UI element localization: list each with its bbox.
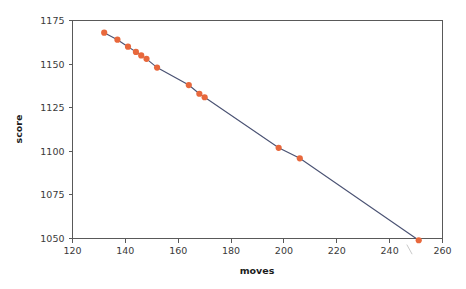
series-line-score [104,33,419,241]
x-axis-ticks: 120140160180200220240260 [63,239,451,256]
data-point-0 [101,30,107,36]
x-axis-title: moves [240,265,275,276]
y-tick-label-1150: 1150 [40,59,64,70]
x-tick-label-140: 140 [116,245,134,256]
data-point-5 [143,56,149,62]
y-tick-label-1125: 1125 [40,102,64,113]
x-tick-label-260: 260 [433,245,451,256]
plot-frame [73,21,443,239]
data-point-7 [186,82,192,88]
data-point-10 [276,145,282,151]
data-point-11 [297,155,303,161]
x-tick-label-160: 160 [169,245,187,256]
y-tick-label-1050: 1050 [40,233,64,244]
data-point-6 [154,64,160,70]
stray-pen-mark [407,245,412,255]
y-tick-label-1175: 1175 [40,15,64,26]
data-point-8 [196,91,202,97]
data-point-1 [114,37,120,43]
data-point-12 [416,237,422,243]
scatter-line-chart: 105010751100112511501175 120140160180200… [0,0,466,289]
annotation-marks [407,245,412,255]
data-point-9 [202,94,208,100]
x-tick-label-220: 220 [328,245,346,256]
data-point-4 [138,52,144,58]
x-tick-label-120: 120 [63,245,81,256]
y-tick-label-1100: 1100 [40,146,64,157]
x-tick-label-240: 240 [381,245,399,256]
y-axis-ticks: 105010751100112511501175 [40,15,72,244]
data-point-2 [125,44,131,50]
y-tick-label-1075: 1075 [40,189,64,200]
x-tick-label-200: 200 [275,245,293,256]
x-tick-label-180: 180 [222,245,240,256]
chart-canvas: 105010751100112511501175 120140160180200… [0,0,466,289]
data-point-3 [133,49,139,55]
y-axis-title: score [13,115,24,144]
